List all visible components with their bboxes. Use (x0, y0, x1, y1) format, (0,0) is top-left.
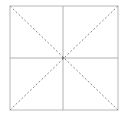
fold-diagram (0, 0, 123, 117)
center-point (62, 57, 64, 59)
